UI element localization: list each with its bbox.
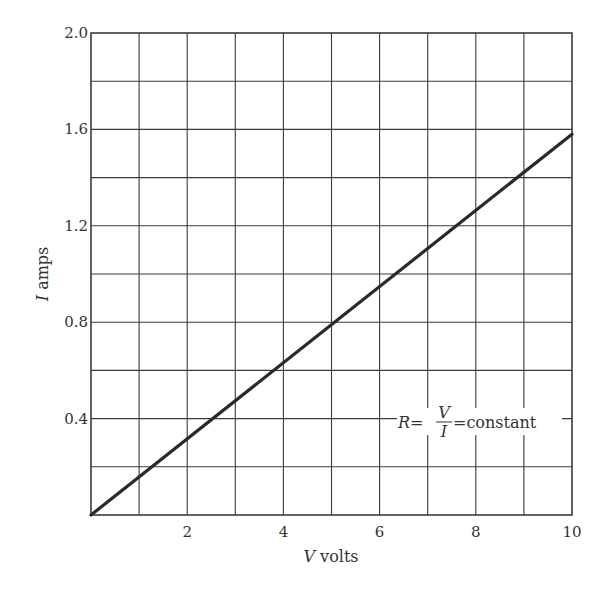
y-axis-ticks: 0.40.81.21.62.0 xyxy=(64,24,88,428)
grid-lines xyxy=(91,33,572,515)
x-axis-label: V volts xyxy=(303,547,358,566)
svg-text:=constant: =constant xyxy=(453,413,537,432)
x-tick-label: 6 xyxy=(375,523,385,541)
x-tick-label: 4 xyxy=(279,523,289,541)
x-axis-ticks: 246810 xyxy=(182,523,581,541)
x-tick-label: 10 xyxy=(562,523,581,541)
x-tick-label: 8 xyxy=(471,523,481,541)
svg-text:R=: R= xyxy=(397,413,423,432)
y-tick-label: 0.8 xyxy=(64,313,88,331)
y-tick-label: 1.6 xyxy=(64,120,88,138)
svg-text:I: I xyxy=(440,422,448,441)
resistance-annotation: R= V I =constant xyxy=(397,403,562,441)
svg-text:V: V xyxy=(438,403,451,422)
ohms-law-chart: 246810 0.40.81.21.62.0 V volts I amps R=… xyxy=(0,0,612,601)
y-tick-label: 2.0 xyxy=(64,24,88,42)
y-tick-label: 1.2 xyxy=(64,217,88,235)
y-tick-label: 0.4 xyxy=(64,410,88,428)
x-tick-label: 2 xyxy=(182,523,192,541)
y-axis-label: I amps xyxy=(33,247,52,303)
